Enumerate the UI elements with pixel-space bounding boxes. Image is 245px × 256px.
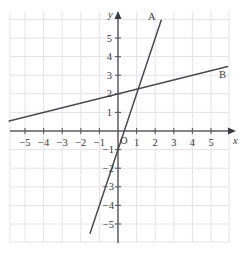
line-b-label: B xyxy=(219,69,226,80)
y-tick-label: 5 xyxy=(107,33,112,44)
line-a xyxy=(90,20,161,233)
coordinate-plane-svg: −5 −4 −3 −2 −1 1 2 3 4 5 5 4 3 2 1 −1 −2… xyxy=(0,0,245,256)
x-tick-label: −5 xyxy=(19,137,30,148)
x-axis-label: x xyxy=(232,135,238,146)
x-tick-label: −2 xyxy=(75,137,86,148)
y-tick-label: −3 xyxy=(103,181,114,192)
y-tick-label: 1 xyxy=(107,107,112,118)
line-a-label: A xyxy=(148,11,156,22)
x-tick-labels: −5 −4 −3 −2 −1 1 2 3 4 5 xyxy=(19,137,213,148)
y-tick-label: −5 xyxy=(103,219,114,230)
origin-label: O xyxy=(120,135,128,146)
y-tick-label: 2 xyxy=(107,88,112,99)
x-tick-label: 3 xyxy=(171,137,176,148)
grid-lines xyxy=(10,12,229,243)
y-tick-label: 4 xyxy=(107,51,113,62)
x-tick-label: 2 xyxy=(153,137,158,148)
y-tick-label: −2 xyxy=(103,163,114,174)
x-tick-label: 5 xyxy=(208,137,213,148)
x-tick-label: 1 xyxy=(134,137,139,148)
y-tick-label: −4 xyxy=(103,200,115,211)
x-tick-label: −4 xyxy=(38,137,50,148)
x-axis-arrow-icon xyxy=(228,128,236,135)
x-tick-label: 4 xyxy=(190,137,196,148)
graph-figure: −5 −4 −3 −2 −1 1 2 3 4 5 5 4 3 2 1 −1 −2… xyxy=(0,0,245,256)
x-tick-label: −3 xyxy=(57,137,68,148)
y-axis-arrow-icon xyxy=(115,11,122,19)
y-tick-label: −1 xyxy=(103,144,114,155)
y-tick-label: 3 xyxy=(107,70,112,81)
y-axis-label: y xyxy=(107,9,113,20)
